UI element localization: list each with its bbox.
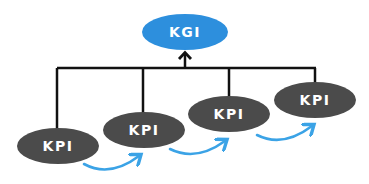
- kgi-kpi-diagram: KGI KPI KPI KPI KPI: [0, 0, 369, 184]
- kpi-node-4: KPI: [274, 82, 356, 118]
- kpi-node-2: KPI: [103, 112, 185, 148]
- kpi-node-1: KPI: [17, 128, 99, 164]
- curved-arrow-icon: [170, 141, 225, 154]
- curved-arrow-icon: [84, 156, 139, 169]
- kpi-label: KPI: [129, 122, 160, 138]
- kgi-label: KGI: [169, 24, 201, 40]
- kpi-node-3: KPI: [188, 96, 270, 132]
- kpi-label: KPI: [43, 138, 74, 154]
- curved-arrow-icon: [257, 126, 312, 140]
- kpi-label: KPI: [214, 106, 245, 122]
- kpi-label: KPI: [300, 92, 331, 108]
- connector-tree: [57, 53, 316, 131]
- kgi-node: KGI: [142, 14, 228, 50]
